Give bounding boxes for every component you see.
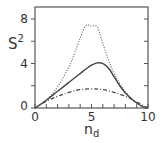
y-tick-label: 4 <box>20 57 28 71</box>
y-axis-label: S2 <box>8 33 24 53</box>
series-layer <box>35 25 148 108</box>
chart: 0510048 S2 nd <box>0 0 162 143</box>
y-tick-label: 0 <box>20 99 28 113</box>
series-line-solid <box>35 63 148 108</box>
plot-frame <box>35 7 148 108</box>
x-axis-label: nd <box>84 121 99 139</box>
x-tick-label: 0 <box>31 110 39 124</box>
ticks-layer <box>31 19 148 108</box>
y-tick-label: 8 <box>20 12 28 26</box>
x-tick-label: 10 <box>140 110 155 124</box>
